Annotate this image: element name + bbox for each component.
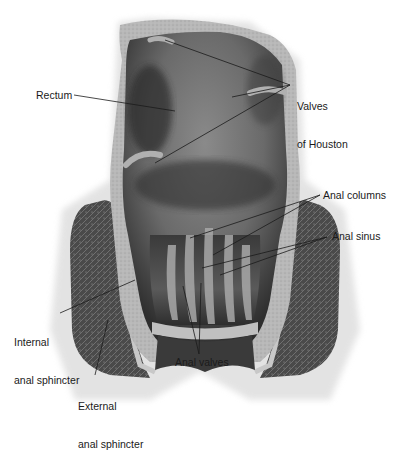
label-internal-line2: anal sphincter	[14, 374, 79, 387]
label-internal-anal-sphincter: Internal anal sphincter	[14, 311, 79, 411]
label-valves-of-houston-line2: of Houston	[297, 138, 348, 151]
label-internal-line1: Internal	[14, 336, 79, 349]
label-valves-of-houston: Valves of Houston	[297, 75, 348, 175]
label-valves-of-houston-line1: Valves	[297, 100, 348, 113]
label-rectum: Rectum	[36, 89, 72, 102]
label-anal-columns: Anal columns	[323, 189, 386, 202]
label-anal-sinus: Anal sinus	[332, 230, 380, 243]
anal-canal	[150, 228, 261, 372]
label-anal-valves: Anal valves	[175, 356, 229, 369]
label-external-line2: anal sphincter	[78, 438, 143, 451]
label-external-line1: External	[78, 400, 143, 413]
label-external-anal-sphincter: External anal sphincter	[78, 375, 143, 454]
